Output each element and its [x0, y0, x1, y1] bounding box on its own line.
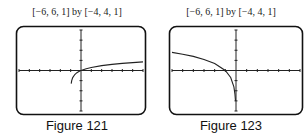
figure-caption: Figure 123 [154, 118, 308, 133]
figure-caption: Figure 121 [0, 118, 154, 133]
figure-123: [−6, 6, 1] by [−4, 4, 1] Figure 123 [154, 0, 308, 139]
figure-121: [−6, 6, 1] by [−4, 4, 1] Figure 121 [0, 0, 154, 139]
